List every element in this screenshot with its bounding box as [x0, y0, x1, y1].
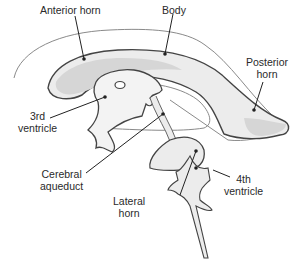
label-text: aqueduct — [40, 180, 83, 192]
label-lateral-horn: Lateral horn — [113, 195, 145, 219]
label-third-ventricle: 3rd ventricle — [18, 110, 57, 134]
label-text: Lateral — [113, 195, 145, 207]
label-cerebral-aqueduct: Cerebral aqueduct — [40, 168, 83, 192]
label-fourth-ventricle: 4th ventricle — [224, 173, 263, 197]
label-text: Cerebral — [40, 168, 83, 180]
label-text: horn — [246, 68, 288, 80]
ventricular-system-illustration — [0, 0, 297, 268]
interthalamic-adhesion — [115, 82, 125, 89]
third-ventricle-shape — [88, 70, 162, 152]
fourth-ventricle-shape — [168, 156, 212, 258]
label-posterior-horn: Posterior horn — [246, 56, 288, 80]
label-text: 4th — [224, 173, 263, 185]
label-body: Body — [162, 4, 186, 16]
label-text: ventricle — [224, 185, 263, 197]
label-text: 3rd — [18, 110, 57, 122]
label-text: Body — [162, 4, 186, 16]
label-text: ventricle — [18, 122, 57, 134]
label-text: horn — [113, 207, 145, 219]
label-text: Anterior horn — [40, 4, 101, 16]
label-anterior-horn: Anterior horn — [40, 4, 101, 16]
label-text: Posterior — [246, 56, 288, 68]
